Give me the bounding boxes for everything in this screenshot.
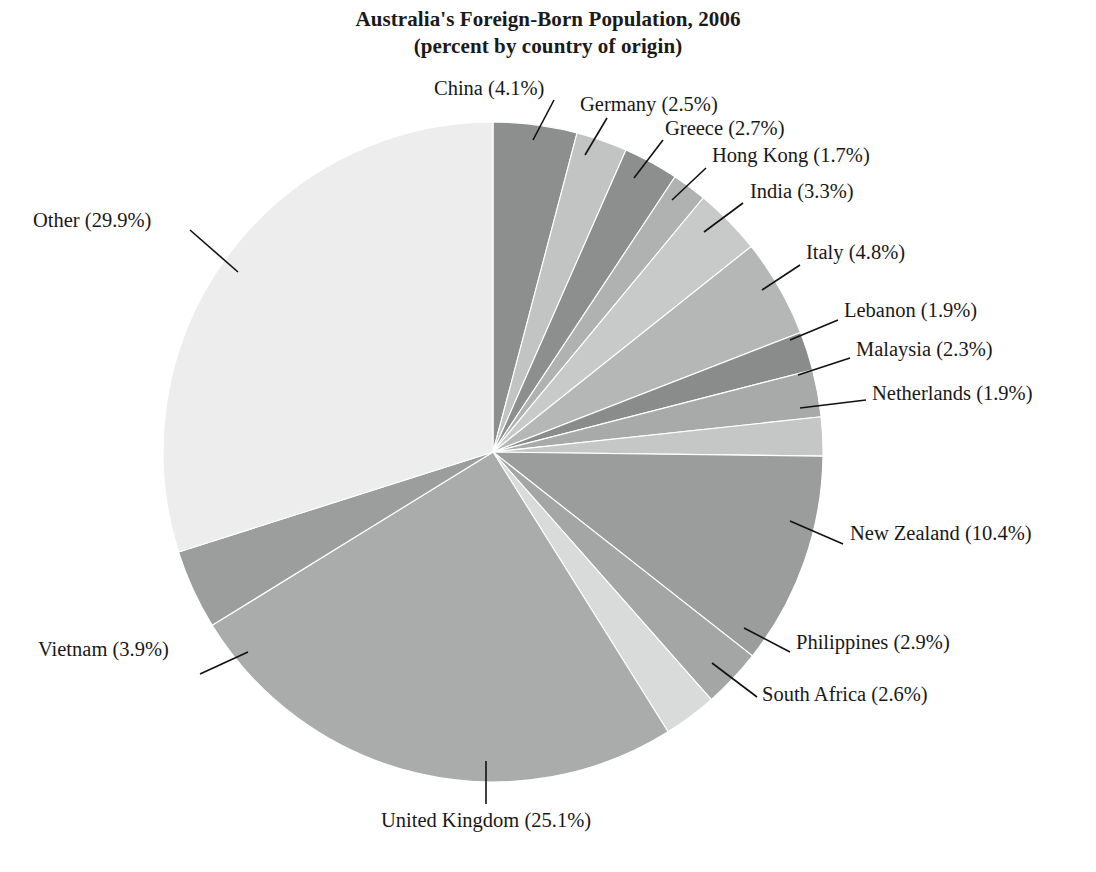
label-greece: Greece (2.7%) — [665, 116, 785, 140]
label-india: India (3.3%) — [750, 179, 854, 203]
label-vietnam: Vietnam (3.9%) — [38, 637, 169, 661]
label-lebanon: Lebanon (1.9%) — [844, 298, 977, 322]
label-philippines: Philippines (2.9%) — [796, 630, 950, 654]
label-united-kingdom: United Kingdom (25.1%) — [381, 808, 591, 832]
pie-slices-group — [163, 122, 823, 782]
label-malaysia: Malaysia (2.3%) — [856, 337, 993, 361]
label-germany: Germany (2.5%) — [580, 92, 718, 116]
pie-chart-figure: Australia's Foreign-Born Population, 200… — [0, 0, 1096, 872]
label-netherlands: Netherlands (1.9%) — [872, 381, 1033, 405]
label-other: Other (29.9%) — [33, 208, 151, 232]
pie-svg — [0, 0, 1096, 872]
label-china: China (4.1%) — [434, 76, 544, 100]
label-south-africa: South Africa (2.6%) — [762, 682, 928, 706]
label-new-zealand: New Zealand (10.4%) — [850, 521, 1032, 545]
label-italy: Italy (4.8%) — [806, 240, 905, 264]
label-hong-kong: Hong Kong (1.7%) — [712, 143, 870, 167]
